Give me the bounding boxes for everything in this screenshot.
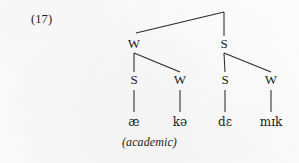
- node-level2-s-2: S: [221, 72, 228, 87]
- leaf-syllable-4: mɪk: [260, 115, 283, 129]
- left-w-branch-to-w: [134, 53, 180, 72]
- leaf-syllable-3: dɛ: [218, 115, 232, 129]
- left-w-branches: [134, 53, 180, 72]
- root-branch-to-left-w: [136, 12, 224, 33]
- node-level2-w-2: W: [265, 72, 278, 87]
- leaf-syllable-1: æ: [128, 115, 139, 129]
- leaf-syllable-2: kə: [173, 115, 187, 129]
- terminal-stems: [134, 90, 271, 112]
- gloss-caption: (academic): [0, 136, 299, 148]
- right-s-branches: [224, 53, 271, 72]
- right-s-branch-to-w: [224, 53, 271, 72]
- node-level2-w-1: W: [174, 72, 187, 87]
- node-level1-w: W: [128, 36, 141, 51]
- right-s-stem-to-s: [224, 53, 225, 72]
- node-level1-s: S: [220, 36, 227, 51]
- node-level2-s-1: S: [130, 72, 137, 87]
- root-branches: [136, 12, 224, 36]
